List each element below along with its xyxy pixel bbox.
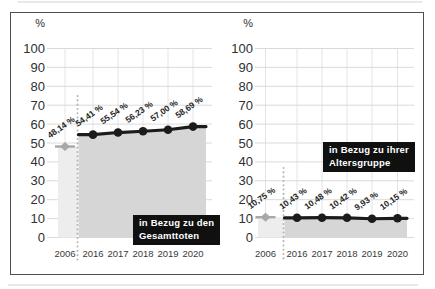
data-point-marker — [368, 214, 377, 223]
y-tick-label: 0 — [246, 230, 253, 245]
x-tick-label: 2006 — [54, 248, 75, 259]
data-point-marker — [293, 213, 302, 222]
data-point-marker — [318, 213, 327, 222]
annotation-box-altersgruppe: in Bezug zu ihrer Altersgruppe — [323, 142, 415, 172]
x-tick-label: 2019 — [361, 248, 382, 259]
y-tick-label: 0 — [38, 230, 45, 245]
data-point-marker — [393, 214, 402, 223]
data-point-marker — [89, 130, 98, 139]
data-point-marker — [139, 127, 148, 136]
data-point-marker — [343, 214, 352, 223]
x-tick-label: 2018 — [336, 248, 357, 259]
value-label: 55,54 % — [98, 100, 130, 126]
annotation-line: in Bezug zu den — [139, 217, 214, 230]
y-tick-label: 100 — [231, 41, 253, 56]
data-point-marker — [164, 125, 173, 134]
y-tick-label: 20 — [31, 192, 45, 207]
annotation-box-gesamttoten: in Bezug zu den Gesamttoten — [133, 215, 220, 245]
y-axis-unit-label: % — [35, 17, 45, 29]
x-tick-label: 2016 — [286, 248, 307, 259]
annotation-line: in Bezug zu ihrer — [329, 144, 409, 157]
x-tick-label: 2017 — [107, 248, 128, 259]
x-tick-label: 2020 — [182, 248, 203, 259]
y-tick-label: 90 — [31, 60, 45, 75]
x-tick-label: 2016 — [82, 248, 103, 259]
x-tick-label: 2020 — [387, 248, 408, 259]
baseline-year-band — [58, 147, 78, 238]
annotation-line: Altersgruppe — [329, 157, 409, 170]
y-tick-label: 50 — [31, 136, 45, 151]
value-label: 10,15 % — [378, 186, 410, 212]
y-tick-label: 50 — [239, 136, 253, 151]
value-label: 58,69 % — [173, 94, 205, 120]
y-tick-label: 60 — [239, 117, 253, 132]
y-tick-label: 10 — [239, 211, 253, 226]
x-tick-label: 2019 — [157, 248, 178, 259]
y-tick-label: 40 — [239, 154, 253, 169]
value-label: 56,23 % — [123, 99, 155, 125]
value-label: 48,14 % — [45, 114, 77, 140]
x-tick-label: 2017 — [311, 248, 332, 259]
y-tick-label: 30 — [239, 173, 253, 188]
y-tick-label: 80 — [31, 79, 45, 94]
y-axis-unit-label: % — [243, 17, 253, 29]
y-tick-label: 10 — [31, 211, 45, 226]
y-tick-label: 60 — [31, 117, 45, 132]
y-tick-label: 80 — [239, 79, 253, 94]
infographic-canvas: 0102030405060708090100%48,14 %54,41 %55,… — [0, 0, 435, 289]
y-tick-label: 40 — [31, 154, 45, 169]
y-tick-label: 30 — [31, 173, 45, 188]
annotation-line: Gesamttoten — [139, 230, 214, 243]
baseline-year-band — [258, 217, 284, 237]
data-point-marker — [114, 128, 123, 137]
x-tick-label: 2018 — [132, 248, 153, 259]
y-tick-label: 100 — [23, 41, 45, 56]
y-tick-label: 70 — [239, 98, 253, 113]
x-tick-label: 2006 — [255, 248, 276, 259]
y-tick-label: 70 — [31, 98, 45, 113]
data-point-marker — [189, 122, 198, 131]
y-tick-label: 90 — [239, 60, 253, 75]
